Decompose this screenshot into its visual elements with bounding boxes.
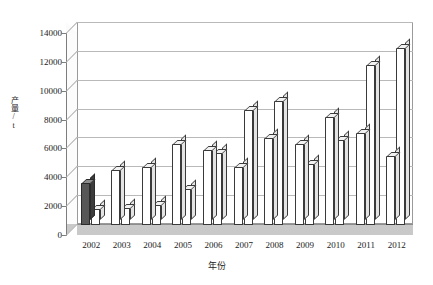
bar-front-face xyxy=(172,144,181,225)
gridline xyxy=(77,51,413,52)
bar-front-face xyxy=(234,167,243,225)
bar-side-face xyxy=(181,135,186,220)
y-axis-tick-label: 4000 xyxy=(20,172,62,182)
y-axis-title: 产量/t xyxy=(6,96,18,130)
bar-column xyxy=(172,144,181,225)
bar-side-face xyxy=(161,195,166,220)
bar-front-face xyxy=(295,144,304,225)
bar-front-face xyxy=(264,138,273,225)
bar-side-face xyxy=(283,91,288,220)
bar-front-face xyxy=(111,170,120,225)
bar-column xyxy=(295,144,304,225)
bar-front-face xyxy=(386,156,395,225)
bar-column xyxy=(356,133,365,225)
bar-column xyxy=(264,138,273,225)
chart-figure: 产量/t 年份 02000400060008000100001200014000… xyxy=(0,0,433,285)
bar-side-face xyxy=(222,143,227,220)
bar-front-face xyxy=(81,183,90,225)
bar-front-face xyxy=(356,133,365,225)
plot-floor xyxy=(66,224,413,235)
bar-side-face xyxy=(253,100,258,220)
bar-column xyxy=(325,117,334,225)
y-axis-tick-label: 8000 xyxy=(20,115,62,125)
bar-side-face xyxy=(405,38,410,220)
y-axis-tick-label: 6000 xyxy=(20,143,62,153)
gridline xyxy=(77,80,413,81)
x-axis-title: 年份 xyxy=(0,259,433,272)
bar-front-face xyxy=(203,150,212,225)
plot-area xyxy=(66,22,413,235)
y-axis-tick-label: 14000 xyxy=(20,28,62,38)
bar-front-face xyxy=(325,117,334,225)
bar-column xyxy=(81,183,90,225)
y-axis-tick-label: 0 xyxy=(20,230,62,240)
bar-column xyxy=(234,167,243,225)
bar-column xyxy=(111,170,120,225)
x-axis-tick-label: 2012 xyxy=(377,240,417,250)
bar-column xyxy=(203,150,212,225)
bar-side-face xyxy=(304,135,309,220)
bar-side-face xyxy=(395,146,400,220)
bar-side-face xyxy=(365,123,370,220)
bar-side-face xyxy=(344,130,349,220)
y-axis-tick-label: 2000 xyxy=(20,201,62,211)
bar-column xyxy=(386,156,395,225)
gridline xyxy=(77,22,413,23)
bar-column xyxy=(142,167,151,225)
bar-side-face xyxy=(273,129,278,220)
bar-side-face xyxy=(334,107,339,220)
bar-front-face xyxy=(142,167,151,225)
bar-side-face xyxy=(375,55,380,220)
y-axis-tick-label: 12000 xyxy=(20,57,62,67)
bar-side-face xyxy=(212,140,217,220)
y-axis-tick-label: 10000 xyxy=(20,86,62,96)
